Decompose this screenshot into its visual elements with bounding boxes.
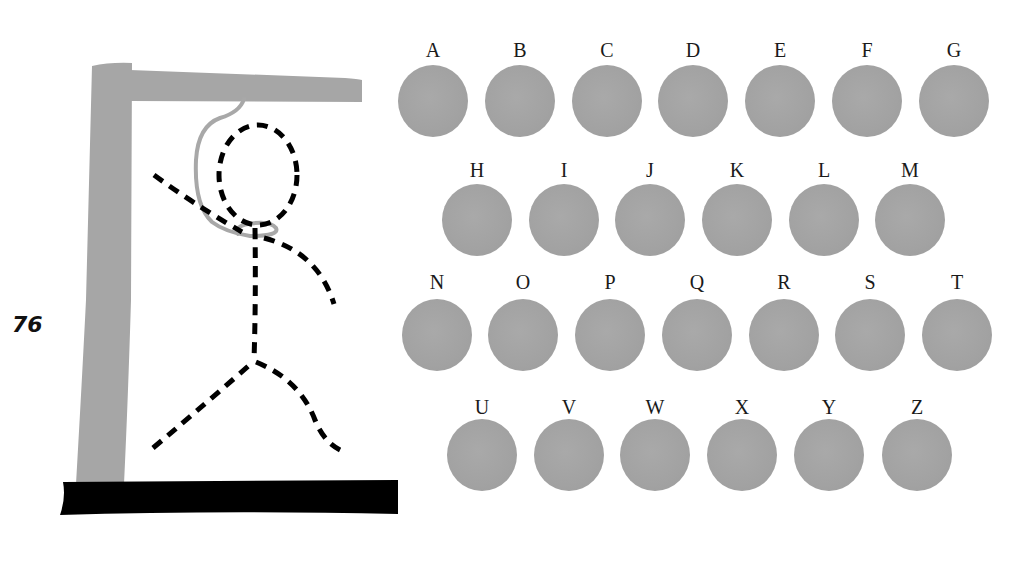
letter-button-k[interactable] bbox=[702, 184, 772, 256]
figure-right-leg bbox=[256, 362, 345, 452]
letter-button-q[interactable] bbox=[662, 299, 732, 371]
gallows-base bbox=[60, 480, 398, 515]
rope bbox=[196, 99, 277, 236]
letter-button-i[interactable] bbox=[529, 184, 599, 256]
letter-button-o[interactable] bbox=[488, 299, 558, 371]
letter-button-m[interactable] bbox=[875, 184, 945, 256]
letter-label: O bbox=[488, 272, 558, 292]
letter-label: Y bbox=[794, 397, 864, 417]
letter-button-n[interactable] bbox=[402, 299, 472, 371]
gallows-post bbox=[76, 63, 132, 484]
letter-label: X bbox=[707, 397, 777, 417]
letter-button-c[interactable] bbox=[572, 65, 642, 137]
letter-label: C bbox=[572, 40, 642, 60]
letter-label: E bbox=[745, 40, 815, 60]
figure-right-arm bbox=[264, 238, 334, 304]
letter-button-t[interactable] bbox=[922, 299, 992, 371]
letter-button-v[interactable] bbox=[534, 419, 604, 491]
letter-label: L bbox=[789, 160, 859, 180]
letter-label: V bbox=[534, 397, 604, 417]
letter-button-h[interactable] bbox=[442, 184, 512, 256]
letter-label: G bbox=[919, 40, 989, 60]
hangman-game: 76 ABCDEFGHIJKLMNOPQRSTUVWXYZ bbox=[0, 0, 1016, 569]
letter-button-g[interactable] bbox=[919, 65, 989, 137]
figure-left-leg bbox=[153, 362, 253, 448]
letter-button-w[interactable] bbox=[620, 419, 690, 491]
letter-button-e[interactable] bbox=[745, 65, 815, 137]
gallows-drawing bbox=[0, 0, 420, 569]
gallows-beam bbox=[130, 70, 362, 102]
letter-label: M bbox=[875, 160, 945, 180]
letter-button-u[interactable] bbox=[447, 419, 517, 491]
letter-label: P bbox=[575, 272, 645, 292]
letter-label: Z bbox=[882, 397, 952, 417]
letter-button-j[interactable] bbox=[615, 184, 685, 256]
figure-head bbox=[219, 125, 297, 225]
letter-button-l[interactable] bbox=[789, 184, 859, 256]
letter-label: R bbox=[749, 272, 819, 292]
letter-label: F bbox=[832, 40, 902, 60]
letter-label: Q bbox=[662, 272, 732, 292]
letter-label: U bbox=[447, 397, 517, 417]
letter-label: W bbox=[620, 397, 690, 417]
letter-label: K bbox=[702, 160, 772, 180]
letter-label: T bbox=[922, 272, 992, 292]
letter-button-f[interactable] bbox=[832, 65, 902, 137]
letter-label: B bbox=[485, 40, 555, 60]
letter-button-s[interactable] bbox=[835, 299, 905, 371]
letter-button-p[interactable] bbox=[575, 299, 645, 371]
letter-label: D bbox=[658, 40, 728, 60]
letter-button-r[interactable] bbox=[749, 299, 819, 371]
letter-button-d[interactable] bbox=[658, 65, 728, 137]
figure-body bbox=[254, 228, 255, 360]
letter-label: N bbox=[402, 272, 472, 292]
letter-label: A bbox=[398, 40, 468, 60]
letter-label: S bbox=[835, 272, 905, 292]
letter-button-x[interactable] bbox=[707, 419, 777, 491]
letter-button-a[interactable] bbox=[398, 65, 468, 137]
letter-button-b[interactable] bbox=[485, 65, 555, 137]
letter-label: J bbox=[615, 160, 685, 180]
letter-button-z[interactable] bbox=[882, 419, 952, 491]
letter-label: I bbox=[529, 160, 599, 180]
letter-label: H bbox=[442, 160, 512, 180]
letter-button-y[interactable] bbox=[794, 419, 864, 491]
